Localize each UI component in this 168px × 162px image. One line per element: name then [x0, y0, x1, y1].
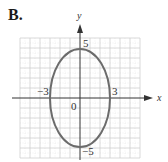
- y-axis-label: y: [76, 10, 82, 21]
- x-axis-label: x: [156, 92, 162, 103]
- x-axis-arrow-icon: [144, 95, 153, 101]
- bottom-vertex-label: −5: [82, 145, 94, 157]
- left-vertex-label: −3: [37, 85, 49, 97]
- right-vertex-label: 3: [112, 85, 118, 97]
- top-vertex-label: 5: [83, 37, 89, 49]
- origin-label: 0: [71, 100, 77, 112]
- y-axis-arrow-icon: [77, 24, 83, 33]
- x-axis: [12, 95, 153, 101]
- ellipse-figure: B.: [0, 0, 168, 162]
- panel-label: B.: [8, 7, 23, 23]
- ellipse-plot: y x 5 −5 3 −3 0: [0, 0, 168, 162]
